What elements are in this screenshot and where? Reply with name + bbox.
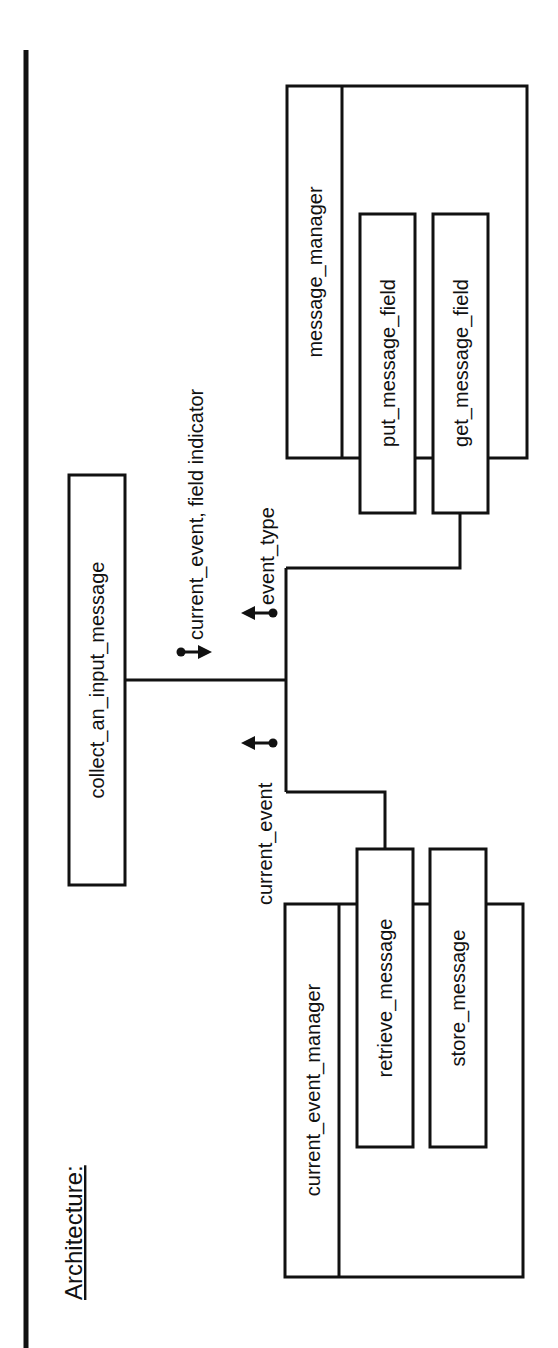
operation-label: store_message bbox=[447, 930, 470, 1067]
module-label: collect_an_input_message bbox=[86, 562, 109, 799]
structure-chart-connectors bbox=[125, 513, 460, 849]
operation-retrieve-message: retrieve_message bbox=[357, 849, 413, 1147]
module-label: message_manager bbox=[304, 186, 327, 358]
architecture-diagram: Architecture: collect_an_input_message c… bbox=[0, 0, 558, 1348]
operation-label: put_message_field bbox=[377, 279, 400, 447]
couple-current-event-field-indicator: current_event, field indicator bbox=[177, 388, 213, 659]
couple-label: current_event, field indicator bbox=[185, 388, 208, 640]
module-label: current_event_manager bbox=[302, 983, 325, 1196]
couple-event-type: event_type bbox=[241, 507, 279, 620]
module-message-manager: message_manager put_message_field get_me… bbox=[287, 86, 527, 513]
module-collect-an-input-message: collect_an_input_message bbox=[69, 475, 125, 885]
diagram-title: Architecture: bbox=[60, 1165, 87, 1300]
couple-current-event: current_event bbox=[241, 736, 278, 905]
operation-put-message-field: put_message_field bbox=[360, 214, 415, 513]
arrow-left-icon bbox=[241, 736, 255, 750]
call-line-retrieve-message bbox=[286, 792, 385, 849]
couple-label: current_event bbox=[254, 782, 277, 905]
couple-label: event_type bbox=[256, 507, 279, 605]
module-current-event-manager: current_event_manager retrieve_message s… bbox=[285, 849, 523, 1277]
operation-label: retrieve_message bbox=[374, 919, 397, 1078]
operation-label: get_message_field bbox=[450, 279, 473, 447]
arrow-left-icon bbox=[241, 606, 255, 620]
call-line-get-message-field bbox=[286, 513, 460, 568]
arrow-right-icon bbox=[198, 645, 212, 659]
operation-get-message-field: get_message_field bbox=[433, 214, 488, 513]
operation-store-message: store_message bbox=[430, 849, 486, 1147]
